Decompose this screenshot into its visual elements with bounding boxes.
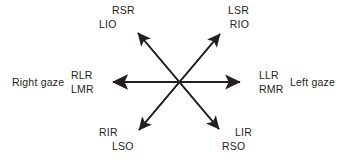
muscle-label-lower-left-line1: RIR bbox=[99, 126, 134, 140]
muscle-label-lower-left: RIR LSO bbox=[99, 126, 134, 153]
muscle-label-upper-left-line2: LIO bbox=[99, 18, 135, 32]
muscle-label-upper-right-line2: RIO bbox=[228, 18, 249, 32]
muscle-label-lower-right-line2: RSO bbox=[222, 140, 252, 154]
muscle-label-upper-right-line1: LSR bbox=[228, 4, 249, 18]
muscle-label-mid-left: RLR LMR bbox=[71, 69, 94, 96]
diagonal-se-arrow bbox=[138, 33, 219, 129]
muscle-label-mid-left-line1: RLR bbox=[71, 69, 94, 83]
muscle-label-lower-left-line2: LSO bbox=[112, 140, 134, 154]
gaze-diagram: RSR LIO LSR RIO RLR LMR LLR RMR RIR LSO … bbox=[0, 0, 349, 164]
left-gaze-label: Left gaze bbox=[290, 76, 335, 89]
muscle-label-mid-right-line2: RMR bbox=[259, 83, 284, 97]
muscle-label-mid-left-line2: LMR bbox=[71, 83, 94, 97]
muscle-label-mid-right: LLR RMR bbox=[259, 69, 284, 96]
muscle-label-upper-left: RSR LIO bbox=[99, 4, 135, 31]
muscle-label-upper-left-line1: RSR bbox=[112, 4, 135, 18]
muscle-label-lower-right: LIR RSO bbox=[222, 126, 252, 153]
muscle-label-mid-right-line1: LLR bbox=[259, 69, 284, 83]
muscle-label-upper-right: LSR RIO bbox=[228, 4, 249, 31]
right-gaze-label: Right gaze bbox=[12, 76, 64, 89]
muscle-label-lower-right-line1: LIR bbox=[235, 126, 252, 140]
